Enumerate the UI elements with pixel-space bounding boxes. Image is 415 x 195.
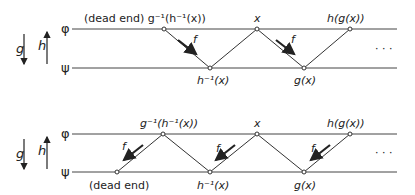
node xyxy=(302,170,306,174)
f-label: f xyxy=(193,33,199,46)
node-label-x: x xyxy=(253,117,261,130)
chain-edges xyxy=(164,29,350,68)
chain-edges xyxy=(117,134,350,172)
h-map-label: h xyxy=(38,38,46,53)
top-diagram: g h φ ψ f f (dead end) g⁻¹(h⁻¹(x)) x h(g… xyxy=(16,12,397,87)
bijection-chain-diagram: g h φ ψ f f (dead end) g⁻¹(h⁻¹(x)) x h(g… xyxy=(0,0,415,195)
node xyxy=(162,27,166,31)
bottom-diagram: g h φ ψ f f f g⁻¹(h⁻¹(x)) x h(g(x)) (dea… xyxy=(16,117,397,192)
node-label-preimage: g⁻¹(h⁻¹(x)) xyxy=(140,117,198,130)
node xyxy=(208,66,212,70)
f-label: f xyxy=(122,140,128,153)
f-label: f xyxy=(311,142,317,155)
node-label-gx: g(x) xyxy=(294,179,316,192)
node-label-hgx: h(g(x)) xyxy=(327,12,365,25)
node-label-gx: g(x) xyxy=(294,74,316,87)
h-map-label: h xyxy=(38,143,46,158)
f-label: f xyxy=(216,142,222,155)
ellipsis: · · · xyxy=(375,146,392,159)
node xyxy=(348,27,352,31)
node-label-hinv-x: h⁻¹(x) xyxy=(197,74,229,87)
phi-label: φ xyxy=(61,21,70,36)
node xyxy=(348,132,352,136)
node xyxy=(255,27,259,31)
node-label-dead-end: (dead end) xyxy=(89,179,149,192)
psi-label: ψ xyxy=(61,60,70,75)
node-label-dead-end-preimage: (dead end) g⁻¹(h⁻¹(x)) xyxy=(84,12,206,25)
g-map-label: g xyxy=(16,41,24,56)
phi-label: φ xyxy=(61,126,70,141)
f-label: f xyxy=(291,33,297,46)
node-label-hinv-x: h⁻¹(x) xyxy=(197,179,229,192)
node xyxy=(161,132,165,136)
g-map-label: g xyxy=(16,146,24,161)
node xyxy=(115,170,119,174)
node-label-x: x xyxy=(253,12,261,25)
ellipsis: · · · xyxy=(375,42,392,55)
psi-label: ψ xyxy=(61,164,70,179)
node xyxy=(255,132,259,136)
node xyxy=(302,66,306,70)
node xyxy=(208,170,212,174)
node-label-hgx: h(g(x)) xyxy=(327,117,365,130)
